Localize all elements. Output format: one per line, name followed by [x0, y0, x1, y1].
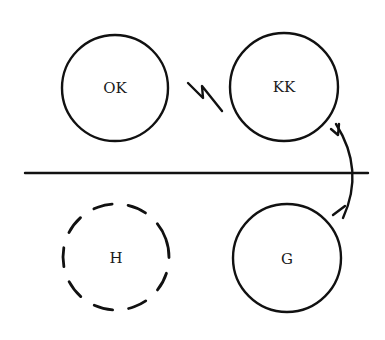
- arrowhead-top-icon: [331, 124, 339, 135]
- node-h-label: H: [109, 249, 122, 267]
- arrowhead-bottom-icon: [333, 206, 345, 215]
- node-kk-label: KK: [273, 78, 296, 96]
- curved-arrow-kk-to-g: [331, 124, 352, 218]
- node-h: H: [48, 189, 184, 325]
- node-ok: OK: [62, 35, 168, 141]
- curved-arrow-path: [336, 124, 352, 218]
- node-g-label: G: [281, 250, 293, 268]
- lightning-bolt-icon: [188, 83, 222, 111]
- node-ok-label: OK: [103, 79, 127, 97]
- node-kk: KK: [230, 33, 338, 141]
- relationship-diagram: OK KK H G: [0, 0, 385, 340]
- node-g: G: [233, 204, 341, 312]
